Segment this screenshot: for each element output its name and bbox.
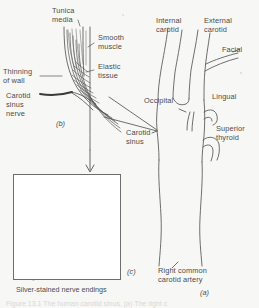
- figure-container: Tunica media Smooth muscle Elastic tissu…: [0, 0, 259, 308]
- arrow-b-to-c: [86, 150, 94, 172]
- vessel-internal-carotid: [158, 28, 182, 100]
- panel-c-caption: Silver-stained nerve endings: [16, 285, 107, 294]
- label-smooth-muscle: Smooth muscle: [98, 33, 124, 51]
- leader-carotid-sinus: [152, 131, 157, 133]
- vessel-facial-branch: [205, 53, 238, 71]
- label-internal-carotid: Internal carotid: [156, 16, 181, 34]
- carotid-sinus-nerve-branches: [72, 92, 96, 110]
- carotid-sinus-nerve-trunk: [40, 92, 72, 95]
- label-carotid-sinus-nerve: Carotid sinus nerve: [6, 91, 31, 119]
- panel-c-micrograph-box: [13, 174, 121, 280]
- scan-speck: [122, 14, 124, 16]
- label-right-common-carotid-artery: Right common carotid artery: [158, 266, 207, 284]
- vessel-carotid-sinus-bulb: [157, 98, 205, 162]
- figure-caption-clipped: Figure 13.1 The human carotid sinus. (a)…: [6, 300, 256, 308]
- scan-speck: [240, 72, 242, 74]
- label-facial: Facial: [222, 45, 242, 54]
- vessel-right-common-carotid: [159, 160, 203, 266]
- label-thinning-of-wall: Thinning of wall: [3, 67, 32, 85]
- leader-occipital: [179, 109, 186, 112]
- label-tunica-media: Tunica media: [52, 6, 75, 24]
- panel-id-a: (a): [200, 288, 209, 297]
- vessel-external-carotid: [189, 30, 210, 100]
- panel-id-b: (b): [56, 119, 65, 128]
- label-carotid-sinus: Carotid sinus: [126, 128, 151, 146]
- panel-id-c: (c): [127, 267, 136, 276]
- label-lingual: Lingual: [212, 92, 237, 101]
- label-superior-thyroid: Superior thyroid: [216, 124, 245, 142]
- vessel-occipital-branch: [187, 112, 194, 131]
- label-elastic-tissue: Elastic tissue: [98, 62, 120, 80]
- label-external-carotid: External carotid: [204, 16, 232, 34]
- label-occipital: Occipital: [144, 96, 173, 105]
- vessel-lingual-branch: [204, 110, 217, 125]
